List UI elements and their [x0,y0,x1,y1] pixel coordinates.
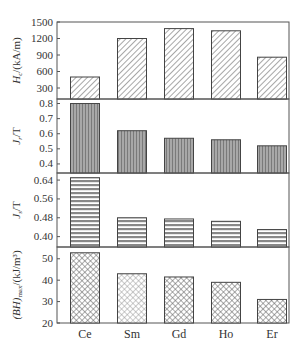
panel-4: 20304050(BH)max/(kJ/m³) [10,247,289,329]
y-tick-label: 0.8 [39,97,53,109]
y-tick-label: 50 [42,252,54,264]
bar-gd [165,138,194,173]
bar-er [258,57,287,99]
bar-gd [165,277,194,323]
y-tick-label: 0.6 [39,127,53,139]
y-tick-label: 0.4 [39,157,53,169]
bar-gd [165,219,194,247]
bar-sm [118,218,147,247]
y-axis-label: (BH)max/(kJ/m³) [10,250,24,319]
panel-2: 0.40.50.60.70.8Jr/T [10,97,289,173]
x-category-label: Gd [172,327,187,341]
y-tick-label: 0.64 [34,174,54,186]
bar-ho [212,31,241,99]
panel-3: 0.400.480.560.64Js/T [10,173,289,247]
bar-er [258,230,287,247]
bar-er [258,299,287,323]
y-tick-label: 900 [37,49,54,61]
bar-gd [165,29,194,99]
bar-sm [118,274,147,323]
y-tick-label: 0.40 [34,230,54,242]
y-tick-label: 0.56 [34,192,54,204]
panel-1: 30060090012001500Hc/(kA/m) [10,16,289,100]
bar-er [258,146,287,173]
y-tick-label: 40 [42,274,54,286]
x-category-label: Er [266,327,277,341]
bar-ho [212,221,241,247]
bar-sm [118,131,147,173]
y-tick-label: 20 [42,317,54,329]
y-axis-label: Jr/T [10,127,24,145]
y-tick-label: 300 [37,82,54,94]
y-tick-label: 1200 [31,32,54,44]
y-axis-label: Hc/(kA/m) [10,37,24,85]
y-tick-label: 600 [37,65,54,77]
x-category-label: Sm [124,327,141,341]
bar-ce [71,104,100,173]
y-axis-label: Js/T [10,201,24,219]
bar-ce [71,253,100,323]
stacked-bar-chart: 30060090012001500Hc/(kA/m)0.40.50.60.70.… [0,0,303,349]
y-tick-label: 0.5 [39,142,53,154]
x-category-label: Ho [219,327,234,341]
x-category-label: Ce [78,327,91,341]
bar-ce [71,77,100,99]
y-tick-label: 0.48 [34,211,54,223]
bar-ho [212,282,241,323]
y-tick-label: 1500 [31,16,54,28]
bar-ce [71,178,100,247]
y-tick-label: 30 [42,295,54,307]
y-tick-label: 0.7 [39,112,53,124]
bar-sm [118,39,147,100]
bar-ho [212,140,241,173]
